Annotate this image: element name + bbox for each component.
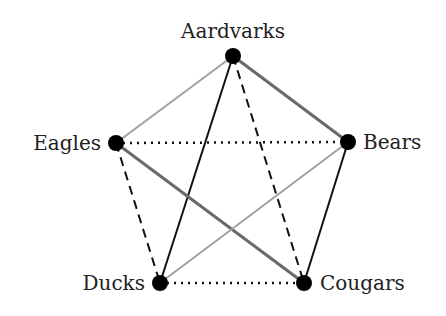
edge-bears-ducks [160, 142, 348, 283]
node-ducks [152, 275, 168, 291]
edge-bears-cougars [304, 142, 348, 283]
node-label-eagles: Eagles [33, 131, 101, 155]
node-label-cougars: Cougars [320, 271, 405, 295]
edge-aardvarks-ducks [160, 56, 233, 283]
node-eagles [108, 135, 124, 151]
edge-aardvarks-bears [233, 56, 348, 142]
node-label-ducks: Ducks [83, 271, 146, 295]
edges-layer [116, 56, 348, 283]
graph-svg: AardvarksBearsCougarsDucksEagles [0, 0, 446, 316]
edge-aardvarks-cougars [233, 56, 304, 283]
graph-diagram: AardvarksBearsCougarsDucksEagles [0, 0, 446, 316]
node-label-bears: Bears [363, 130, 421, 154]
node-aardvarks [225, 48, 241, 64]
edge-eagles-cougars [116, 143, 304, 283]
node-bears [340, 134, 356, 150]
node-cougars [296, 275, 312, 291]
nodes-layer [108, 48, 356, 291]
edge-aardvarks-eagles [116, 56, 233, 143]
edge-eagles-bears [116, 142, 348, 143]
node-label-aardvarks: Aardvarks [180, 19, 285, 43]
edge-eagles-ducks [116, 143, 160, 283]
